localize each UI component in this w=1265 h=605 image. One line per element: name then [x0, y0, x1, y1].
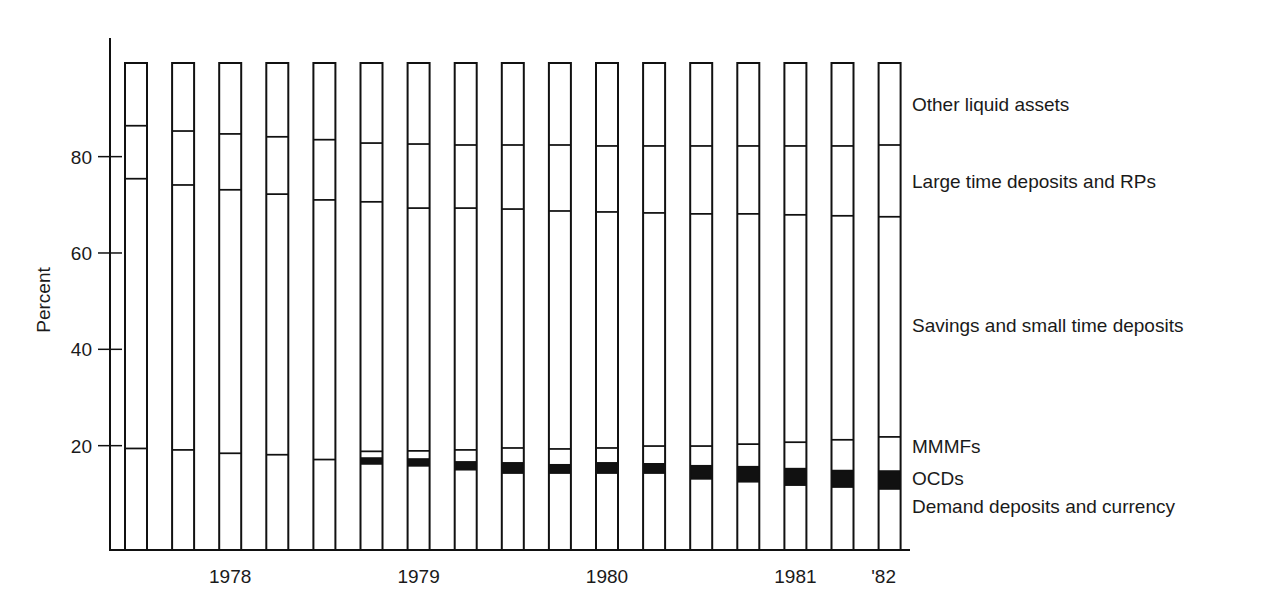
segment-large-time-deposits-and-rps — [455, 144, 477, 207]
segment-demand-deposits-and-currency — [784, 484, 806, 550]
segment-savings-and-small-time-deposits — [643, 212, 665, 445]
segment-savings-and-small-time-deposits — [266, 193, 288, 454]
segment-mmmfs — [455, 449, 477, 461]
segment-large-time-deposits-and-rps — [643, 145, 665, 212]
x-ticks-group: 1978197919801981'82 — [209, 566, 896, 587]
y-tick-label: 40 — [71, 339, 92, 360]
segment-other-liquid-assets — [784, 63, 806, 145]
segment-large-time-deposits-and-rps — [502, 144, 524, 208]
segment-ocds — [784, 468, 806, 484]
segment-demand-deposits-and-currency — [737, 481, 759, 550]
y-ticks-group: 20406080 — [71, 147, 122, 457]
segment-other-liquid-assets — [502, 63, 524, 144]
segment-ocds — [879, 470, 901, 488]
segment-other-liquid-assets — [832, 63, 854, 145]
segment-savings-and-small-time-deposits — [832, 215, 854, 439]
segment-large-time-deposits-and-rps — [549, 144, 571, 210]
bar-2 — [172, 63, 194, 550]
segment-other-liquid-assets — [266, 63, 288, 136]
segment-savings-and-small-time-deposits — [125, 178, 147, 448]
segment-ocds — [690, 465, 712, 478]
bar-9 — [502, 63, 524, 550]
segment-other-liquid-assets — [549, 63, 571, 144]
segment-demand-deposits-and-currency — [313, 459, 335, 550]
segment-savings-and-small-time-deposits — [455, 207, 477, 449]
bar-14 — [737, 63, 759, 550]
segment-other-liquid-assets — [172, 63, 194, 130]
x-tick-label: 1981 — [774, 566, 816, 587]
segment-savings-and-small-time-deposits — [690, 213, 712, 445]
bar-8 — [455, 63, 477, 550]
bar-16 — [832, 63, 854, 550]
segment-large-time-deposits-and-rps — [408, 143, 430, 207]
segment-demand-deposits-and-currency — [502, 472, 524, 550]
segment-mmmfs — [784, 441, 806, 467]
segment-savings-and-small-time-deposits — [408, 207, 430, 450]
y-axis-title: Percent — [33, 267, 54, 333]
segment-savings-and-small-time-deposits — [361, 201, 383, 451]
segment-large-time-deposits-and-rps — [737, 145, 759, 213]
segment-savings-and-small-time-deposits — [313, 199, 335, 459]
segment-demand-deposits-and-currency — [266, 454, 288, 550]
bar-10 — [549, 63, 571, 550]
segment-demand-deposits-and-currency — [596, 472, 618, 550]
segment-mmmfs — [643, 445, 665, 463]
segment-savings-and-small-time-deposits — [879, 216, 901, 436]
segment-demand-deposits-and-currency — [832, 486, 854, 550]
segment-other-liquid-assets — [455, 63, 477, 144]
segment-large-time-deposits-and-rps — [690, 145, 712, 213]
segment-savings-and-small-time-deposits — [219, 189, 241, 452]
bar-5 — [313, 63, 335, 550]
segment-large-time-deposits-and-rps — [219, 133, 241, 189]
segment-large-time-deposits-and-rps — [361, 142, 383, 201]
segment-mmmfs — [596, 447, 618, 462]
x-tick-label: 1980 — [586, 566, 628, 587]
segment-other-liquid-assets — [596, 63, 618, 145]
segment-ocds — [832, 470, 854, 486]
bar-13 — [690, 63, 712, 550]
segment-mmmfs — [690, 445, 712, 465]
segment-other-liquid-assets — [737, 63, 759, 145]
segment-savings-and-small-time-deposits — [172, 184, 194, 449]
bar-11 — [596, 63, 618, 550]
segment-demand-deposits-and-currency — [219, 452, 241, 550]
y-tick-label: 20 — [71, 436, 92, 457]
segment-other-liquid-assets — [879, 63, 901, 144]
segment-savings-and-small-time-deposits — [596, 211, 618, 447]
segment-large-time-deposits-and-rps — [266, 136, 288, 193]
segment-large-time-deposits-and-rps — [313, 139, 335, 199]
segment-mmmfs — [549, 448, 571, 464]
x-tick-label: 1979 — [397, 566, 439, 587]
segment-mmmfs — [879, 436, 901, 470]
segment-savings-and-small-time-deposits — [502, 208, 524, 447]
segment-savings-and-small-time-deposits — [737, 213, 759, 443]
legend-label: Other liquid assets — [912, 94, 1069, 115]
legend-group: Other liquid assetsLarge time deposits a… — [912, 94, 1183, 517]
segment-mmmfs — [502, 447, 524, 462]
bar-17 — [879, 63, 901, 550]
segment-other-liquid-assets — [361, 63, 383, 142]
segment-demand-deposits-and-currency — [690, 478, 712, 550]
segment-demand-deposits-and-currency — [172, 449, 194, 550]
bar-4 — [266, 63, 288, 550]
y-tick-label: 80 — [71, 147, 92, 168]
bar-3 — [219, 63, 241, 550]
legend-label: Savings and small time deposits — [912, 315, 1183, 336]
legend-label: Large time deposits and RPs — [912, 171, 1156, 192]
segment-large-time-deposits-and-rps — [172, 130, 194, 184]
bar-7 — [408, 63, 430, 550]
segment-savings-and-small-time-deposits — [549, 210, 571, 448]
segment-mmmfs — [832, 439, 854, 470]
segment-demand-deposits-and-currency — [643, 472, 665, 550]
segment-demand-deposits-and-currency — [879, 488, 901, 550]
bar-6 — [361, 63, 383, 550]
bar-12 — [643, 63, 665, 550]
segment-other-liquid-assets — [643, 63, 665, 145]
x-tick-label: '82 — [871, 566, 896, 587]
segment-large-time-deposits-and-rps — [125, 125, 147, 178]
segment-other-liquid-assets — [690, 63, 712, 145]
legend-label: Demand deposits and currency — [912, 496, 1175, 517]
bars-group — [125, 63, 901, 550]
segment-large-time-deposits-and-rps — [784, 145, 806, 214]
segment-demand-deposits-and-currency — [125, 448, 147, 550]
